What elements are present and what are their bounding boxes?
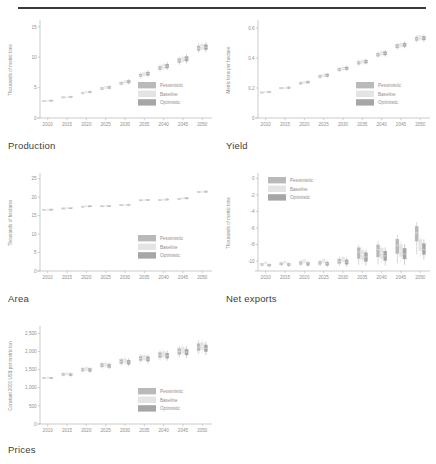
svg-text:2025: 2025 [319, 122, 330, 127]
y-axis-ticks: 05001,0001,5002,0002,500 [25, 331, 40, 427]
box-pessimistic [178, 198, 181, 200]
legend-label: Optimistic [160, 406, 181, 411]
legend-swatch [138, 405, 156, 411]
svg-text:2035: 2035 [357, 122, 368, 127]
legend-label: Baseline [160, 245, 178, 250]
box-pessimistic [280, 262, 283, 266]
svg-text:2050: 2050 [415, 275, 426, 280]
box-baseline [181, 55, 184, 64]
header-divider [18, 7, 426, 9]
box-pessimistic [299, 260, 302, 266]
box-optimistic [185, 346, 188, 358]
box-baseline [65, 207, 68, 208]
box-baseline [283, 260, 286, 264]
box-optimistic [50, 100, 53, 101]
box-baseline [264, 91, 267, 92]
svg-text:0: 0 [34, 116, 37, 121]
svg-text:2025: 2025 [101, 428, 112, 433]
box-optimistic [326, 261, 329, 267]
legend-label: Optimistic [290, 195, 311, 200]
svg-text:2040: 2040 [377, 275, 388, 280]
box-baseline [322, 73, 325, 78]
y-axis-label: Constant 2000 US$ per metric ton [8, 341, 13, 411]
caption-netexports: Net exports [226, 293, 277, 304]
svg-text:-2: -2 [251, 193, 256, 198]
svg-text:2015: 2015 [62, 275, 73, 280]
svg-text:10: 10 [31, 232, 37, 237]
chart-svg-area: 0510152025201020152020202520302035204020… [2, 165, 218, 293]
box-baseline [123, 357, 126, 365]
box-optimistic [204, 42, 207, 52]
plot-netexports[interactable]: 0-2-4-6-8-102010201520202025203020352040… [220, 165, 436, 293]
box-pessimistic [100, 205, 103, 206]
svg-text:15: 15 [31, 213, 37, 218]
svg-text:0: 0 [252, 116, 255, 121]
svg-text:0.2: 0.2 [248, 86, 255, 91]
axes [37, 20, 212, 118]
box-optimistic [345, 66, 348, 71]
box-baseline [104, 205, 107, 206]
svg-text:2010: 2010 [261, 122, 272, 127]
legend-swatch [138, 82, 156, 88]
box-optimistic [422, 239, 425, 260]
plot-area[interactable]: 0510152025201020152020202520302035204020… [2, 165, 218, 293]
box-baseline [181, 344, 184, 356]
box-optimistic [287, 86, 290, 89]
svg-text:2010: 2010 [43, 122, 54, 127]
legend-swatch [138, 99, 156, 105]
svg-text:2045: 2045 [396, 122, 407, 127]
svg-text:2030: 2030 [120, 275, 131, 280]
box-pessimistic [62, 96, 65, 98]
box-baseline [143, 353, 146, 362]
svg-text:2035: 2035 [139, 428, 150, 433]
svg-text:2015: 2015 [280, 122, 291, 127]
box-pessimistic [100, 87, 103, 90]
plot-production[interactable]: 0510152010201520202025203020352040204520… [2, 12, 218, 140]
plot-yield[interactable]: 00.20.40.6201020152020202520302035204020… [220, 12, 436, 140]
plot-prices[interactable]: 05001,0001,5002,0002,5002010201520202025… [2, 318, 218, 446]
box-pessimistic [415, 222, 418, 254]
box-pessimistic [158, 199, 161, 201]
legend: PessimisticBaselineOptimistic [138, 235, 184, 259]
box-optimistic [268, 91, 271, 92]
legend-label: Pessimistic [290, 178, 314, 183]
svg-text:-10: -10 [248, 259, 255, 264]
box-pessimistic [280, 87, 283, 89]
legend-label: Optimistic [160, 100, 181, 105]
box-pessimistic [197, 43, 200, 53]
y-axis-label: Thousands of hectares [8, 199, 13, 246]
box-optimistic [384, 50, 387, 56]
box-optimistic [108, 86, 111, 90]
box-optimistic [306, 261, 309, 267]
box-baseline [85, 91, 88, 94]
box-baseline [143, 199, 146, 201]
chart-svg-prices: 05001,0001,5002,0002,5002010201520202025… [2, 318, 218, 446]
box-pessimistic [261, 92, 264, 94]
box-baseline [201, 42, 204, 52]
panel-production: 0510152010201520202025203020352040204520… [2, 12, 218, 164]
svg-text:2050: 2050 [197, 275, 208, 280]
svg-text:-8: -8 [251, 242, 256, 247]
box-baseline [104, 361, 107, 368]
box-optimistic [146, 355, 149, 364]
chart-svg-netexports: 0-2-4-6-8-102010201520202025203020352040… [220, 165, 436, 293]
box-pessimistic [376, 52, 379, 58]
box-pessimistic [43, 209, 46, 210]
box-baseline [283, 86, 286, 89]
svg-text:10: 10 [31, 55, 37, 60]
box-groups [43, 42, 208, 102]
svg-text:2035: 2035 [357, 275, 368, 280]
box-baseline [399, 241, 402, 263]
box-optimistic [306, 80, 309, 84]
box-optimistic [166, 199, 169, 201]
svg-text:2040: 2040 [377, 122, 388, 127]
svg-text:2030: 2030 [338, 122, 349, 127]
box-baseline [361, 247, 364, 264]
box-pessimistic [62, 372, 65, 376]
legend-swatch [138, 244, 156, 250]
box-pessimistic [197, 191, 200, 193]
legend-label: Baseline [290, 187, 308, 192]
box-baseline [46, 209, 49, 210]
box-baseline [201, 190, 204, 192]
box-pessimistic [139, 354, 142, 363]
